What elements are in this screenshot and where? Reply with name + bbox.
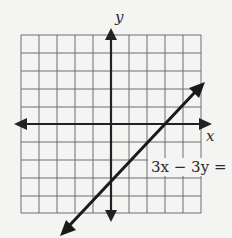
y-axis-down-arrow-icon xyxy=(105,210,117,222)
y-axis-up-arrow-icon xyxy=(105,28,117,40)
axes xyxy=(24,40,206,210)
y-axis-label: y xyxy=(115,8,123,26)
graph-svg xyxy=(0,0,232,238)
x-axis-label: x xyxy=(206,127,214,145)
coordinate-plane-figure: y x 3x − 3y = 9 xyxy=(0,0,232,238)
equation-label: 3x − 3y = 9 xyxy=(148,158,232,176)
